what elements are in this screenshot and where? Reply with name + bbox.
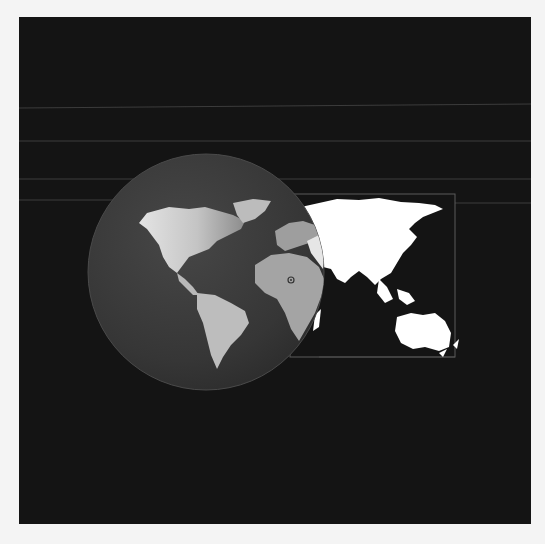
flat-map-asia-australia [301,198,459,357]
world-map-illustration [19,17,531,524]
image-panel [19,17,531,524]
